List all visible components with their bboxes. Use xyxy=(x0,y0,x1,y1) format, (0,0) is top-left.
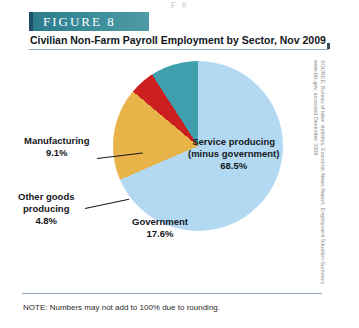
figure-subtitle: Civilian Non-Farm Payroll Employment by … xyxy=(30,34,330,46)
pie-label-manufacturing-name: Manufacturing xyxy=(24,135,89,147)
pie-label-service-producing: Service producing (minus government) 68.… xyxy=(188,136,279,172)
subtitle-divider xyxy=(29,49,329,50)
pie-label-service-name-line2: (minus government) xyxy=(188,148,279,160)
pie-label-service-name-line1: Service producing xyxy=(188,136,279,148)
pie-label-other-goods: Other goods producing 4.8% xyxy=(18,191,74,227)
pie-label-other-value: 4.8% xyxy=(18,215,74,227)
pie-label-government-name: Government xyxy=(132,216,188,228)
pie-label-government-value: 17.6% xyxy=(132,228,188,240)
pie-label-manufacturing: Manufacturing 9.1% xyxy=(24,135,89,159)
pie-label-service-value: 68.5% xyxy=(188,160,279,172)
note-divider xyxy=(22,293,322,294)
figure-banner: FIGURE 8 xyxy=(29,12,149,31)
page-bleed-text: F 8 xyxy=(0,0,359,9)
pie-label-other-name-line2: producing xyxy=(18,203,74,215)
figure-banner-label: FIGURE 8 xyxy=(43,14,116,30)
pie-label-government: Government 17.6% xyxy=(132,216,188,240)
figure-source-credit: SOURCE: Bureau of labor statistics, Econ… xyxy=(310,60,326,290)
subtitle-end-tick xyxy=(327,43,330,49)
pie-label-manufacturing-value: 9.1% xyxy=(24,147,89,159)
pie-label-other-name-line1: Other goods xyxy=(18,191,74,203)
figure-note: NOTE: Numbers may not add to 100% due to… xyxy=(23,303,220,312)
